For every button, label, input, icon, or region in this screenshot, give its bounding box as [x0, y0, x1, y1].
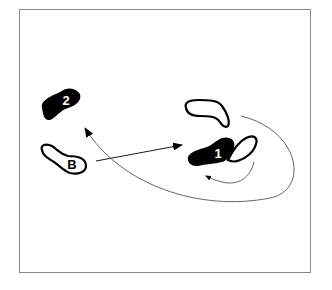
- footprint-1: 1: [188, 136, 257, 166]
- arrow-b-to-1: [96, 145, 182, 161]
- footprint-2: 2: [42, 88, 81, 120]
- footwork-diagram: 2 B 1: [0, 0, 332, 290]
- footprint-1-label: 1: [214, 146, 221, 161]
- footprint-b: B: [42, 145, 86, 174]
- arrow-pivot: [206, 162, 254, 183]
- footprint-b-label: B: [67, 157, 76, 172]
- footprint-start-right: [186, 100, 229, 127]
- footprint-2-label: 2: [62, 93, 69, 108]
